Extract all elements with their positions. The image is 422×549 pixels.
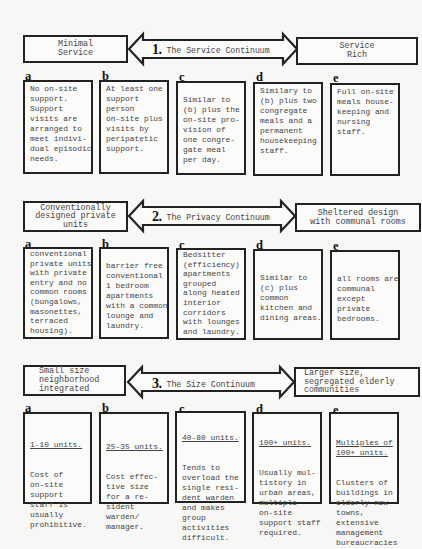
- conventional-units-label: Conventionally designed private units: [23, 201, 128, 232]
- item-box-c: Similar to (b) plus the on-site pro- vis…: [176, 81, 246, 175]
- continuum-title: 2. The Privacy Continuum: [152, 208, 270, 226]
- item-box-c: 40-80 units. Tends to overload the singl…: [175, 411, 246, 503]
- item-box-d: Similar to (c) plus common kitchen and d…: [253, 249, 323, 340]
- item-box-e: Multiples of 100+ units. Clusters of bui…: [329, 412, 399, 504]
- item-box-a: No on-site support. Support visits are a…: [23, 80, 93, 174]
- item-box-d: 100+ units. Usually mul- tistory in urba…: [252, 412, 322, 504]
- continuum-number: 2.: [152, 209, 162, 225]
- item-text: Clusters of buildings in elderly new tow…: [336, 478, 395, 548]
- item-heading: 1-10 units.: [30, 440, 88, 450]
- item-heading: Multiples of 100+ units.: [336, 438, 395, 458]
- item-box-a: 1-10 units. Cost of on-site support staf…: [23, 412, 92, 504]
- item-text: Usually mul- tistory in urban areas, mul…: [259, 468, 318, 538]
- continuum-title: 1. The Service Continuum: [152, 41, 270, 59]
- item-box-e: Full on-site meals house- keeping and nu…: [330, 83, 400, 176]
- item-heading: 40-80 units.: [182, 433, 242, 443]
- continuum-title-text: The Privacy Continuum: [167, 213, 270, 222]
- service-rich-label: Service Rich: [296, 37, 418, 65]
- continuum-title-text: The Size Continuum: [167, 380, 255, 389]
- continuum-title-text: The Service Continuum: [167, 46, 270, 55]
- sheltered-design-label: Sheltered design with communal rooms: [295, 203, 421, 232]
- item-text: Cost effec- tive size for a re- sident w…: [106, 472, 165, 532]
- item-box-b: 25-35 units. Cost effec- tive size for a…: [99, 412, 169, 504]
- item-box-b: At least one support person on-site plus…: [99, 80, 169, 174]
- item-heading: 25-35 units.: [106, 442, 165, 452]
- item-text: Tends to overload the single resi- dent …: [182, 463, 242, 543]
- continuum-title: 3. The Size Continuum: [152, 375, 255, 393]
- larger-size-label: Larger size, segregated elderly communit…: [294, 367, 420, 397]
- item-box-d: Similary to (b) plus two congregate meal…: [253, 82, 323, 176]
- minimal-service-label: Minimal Service: [23, 35, 128, 63]
- continuum-number: 3.: [152, 376, 162, 392]
- item-heading: 100+ units.: [259, 438, 318, 448]
- item-box-c: Bedsitter (efficiency) apartments groupe…: [176, 248, 246, 340]
- small-size-label: Small size neighborhood integrated: [23, 365, 126, 396]
- item-text: Cost of on-site support staff is usually…: [30, 470, 88, 530]
- continuum-number: 1.: [152, 42, 162, 58]
- item-box-a: conventional private units with private …: [23, 247, 93, 339]
- item-box-e: all rooms are communal except private be…: [330, 250, 400, 340]
- item-box-b: barrier free conventional 1 bedroom apar…: [99, 247, 169, 339]
